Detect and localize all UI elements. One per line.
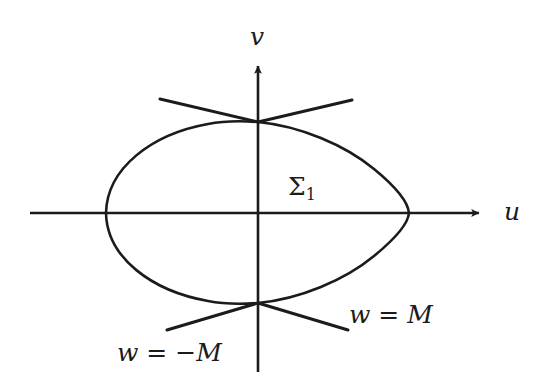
axis-label-u: u [504, 199, 520, 224]
diagram-svg [0, 0, 551, 381]
figure-canvas: u v Σ1 w = M w = −M [0, 0, 551, 381]
level-line-upper-left [160, 99, 258, 122]
region-label-sigma-1: Σ1 [288, 174, 316, 199]
axis-label-v: v [250, 24, 264, 49]
level-label-w-equals-m: w = M [349, 302, 433, 327]
level-line-upper-right [258, 100, 352, 122]
level-line-lower-left [167, 303, 258, 330]
sigma-subscript: 1 [306, 185, 316, 204]
level-line-lower-right [258, 303, 348, 330]
sigma-glyph: Σ [288, 172, 306, 201]
level-label-w-equals-minus-m: w = −M [117, 340, 222, 365]
